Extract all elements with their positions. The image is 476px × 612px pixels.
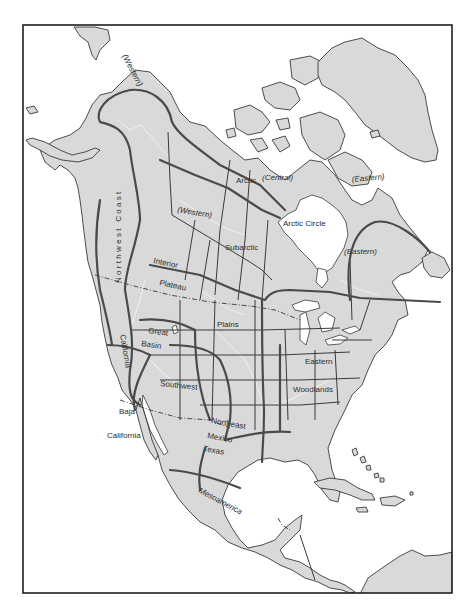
north-america-landmass xyxy=(40,70,428,593)
label-arctic: Arctic xyxy=(236,176,256,185)
label-arctic-central: (Central) xyxy=(262,173,293,182)
label-baja: Baja xyxy=(119,407,136,416)
siberia-tip xyxy=(74,27,110,60)
small-island xyxy=(370,130,380,138)
label-arctic-circle: Arctic Circle xyxy=(283,219,326,228)
label-woodlands: Woodlands xyxy=(293,385,333,394)
label-northwest-coast: Northwest Coast xyxy=(114,189,123,283)
label-subarctic-eastern: (Eastern) xyxy=(344,247,377,256)
label-eastern: Eastern xyxy=(305,357,333,366)
culture-areas-map: (Western) Arctic (Central) (Eastern) Arc… xyxy=(0,0,476,612)
aleutian-island xyxy=(26,106,38,114)
label-baja-california: California xyxy=(107,431,141,440)
label-subarctic: Subarctic xyxy=(225,243,258,252)
label-arctic-eastern: (Eastern) xyxy=(351,172,385,184)
newfoundland xyxy=(422,252,450,278)
south-america xyxy=(360,550,452,594)
map-canvas: (Western) Arctic (Central) (Eastern) Arc… xyxy=(0,0,476,612)
label-plains: Plains xyxy=(217,320,239,329)
